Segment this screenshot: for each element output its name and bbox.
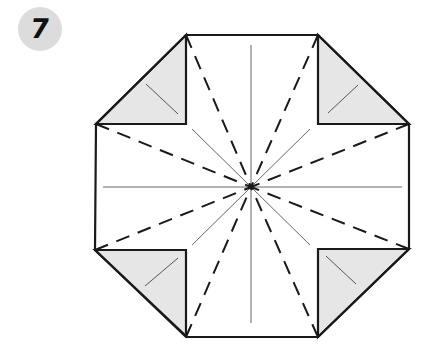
valley-fold-line <box>251 187 409 249</box>
crease-line <box>192 187 251 245</box>
valley-fold-line <box>96 124 251 187</box>
origami-fold-diagram <box>0 0 434 348</box>
valley-fold-line <box>186 187 251 337</box>
valley-fold-line <box>186 35 251 187</box>
crease-line <box>192 129 251 187</box>
valley-fold-line <box>251 124 409 187</box>
crease-line <box>251 129 310 187</box>
crease-line <box>251 187 310 245</box>
valley-fold-line <box>251 187 318 337</box>
valley-fold-line <box>251 35 318 187</box>
